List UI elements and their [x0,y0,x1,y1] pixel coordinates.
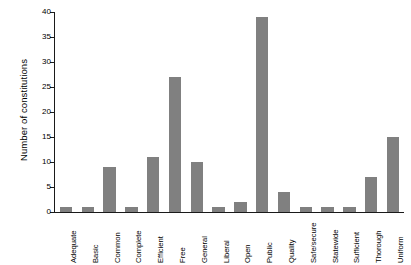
bar-chart: Number of constitutions 0510152025303540… [0,0,411,265]
bar-slot [99,12,121,212]
x-label-slot: Adequate [55,215,77,265]
x-label-slot: Uniform [382,215,404,265]
bar-slot [120,12,142,212]
bar [82,207,94,212]
y-tick-label: 10 [42,156,51,167]
x-label-slot: Safe/secure [295,215,317,265]
x-label-slot: Free [164,215,186,265]
y-tick-label: 15 [42,131,51,142]
bar [212,207,224,212]
bar [147,157,159,212]
bar-slot [251,12,273,212]
bar [103,167,115,212]
bar-slot [317,12,339,212]
bar [191,162,203,212]
x-label-slot: Quality [273,215,295,265]
bar-slot [230,12,252,212]
plot-area: 0510152025303540 [54,12,404,213]
x-axis-tick-labels: AdequateBasicCommonCompleteEfficientFree… [55,215,404,265]
bar-slot [77,12,99,212]
y-tick-label: 40 [42,6,51,17]
x-label-slot: Liberal [208,215,230,265]
x-label-slot: Efficient [142,215,164,265]
bar [321,207,333,212]
x-label-slot: Public [251,215,273,265]
bar [234,202,246,212]
bar [278,192,290,212]
y-tick-label: 5 [47,181,51,192]
x-label-slot: Thorough [360,215,382,265]
y-tick-label: 25 [42,81,51,92]
y-tick-label: 0 [47,206,51,217]
x-label-slot: Complete [120,215,142,265]
bar-slot [295,12,317,212]
x-label-slot: Basic [77,215,99,265]
bar [343,207,355,212]
bar-slot [273,12,295,212]
x-label-slot: General [186,215,208,265]
bar-slot [186,12,208,212]
bar-slot [142,12,164,212]
bar [256,17,268,212]
bar-slot [164,12,186,212]
bar [300,207,312,212]
y-tick-label: 35 [42,31,51,42]
bar-slot [339,12,361,212]
bar [60,207,72,212]
bar [169,77,181,212]
bar-slot [55,12,77,212]
x-axis-line [54,212,404,213]
x-tick-label: Uniform [397,236,405,263]
y-axis-title: Number of constitutions [16,5,32,215]
bar [125,207,137,212]
x-label-slot: Sufficient [339,215,361,265]
y-tick-label: 20 [42,106,51,117]
x-label-slot: Common [99,215,121,265]
bar [365,177,377,212]
bar [387,137,399,212]
bar-series [55,12,404,212]
bar-slot [360,12,382,212]
bar-slot [208,12,230,212]
y-tick-label: 30 [42,56,51,67]
bar-slot [382,12,404,212]
x-label-slot: Statewide [317,215,339,265]
x-label-slot: Open [230,215,252,265]
